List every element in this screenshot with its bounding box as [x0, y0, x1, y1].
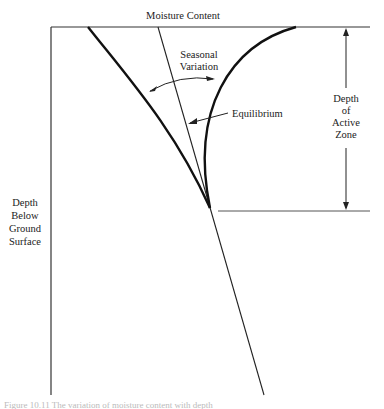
- active-zone-arrow-bottom: [343, 202, 349, 210]
- moisture-depth-diagram: Moisture Content Seasonal Variation Equi…: [0, 0, 384, 409]
- arc-arrowhead-right: [206, 76, 215, 81]
- active-zone-arrow-top: [343, 28, 349, 36]
- label-depth-below-2: Below: [11, 210, 39, 221]
- label-active-zone-3: Active: [332, 117, 360, 128]
- label-seasonal-variation-2: Variation: [180, 61, 219, 72]
- figure-caption: Figure 10.11 The variation of moisture c…: [4, 400, 213, 409]
- label-equilibrium: Equilibrium: [232, 108, 283, 119]
- seasonal-variation-arc: [150, 78, 213, 91]
- label-depth-below-4: Surface: [9, 236, 41, 247]
- title-moisture-content: Moisture Content: [146, 10, 220, 21]
- equilibrium-arrowhead: [188, 118, 197, 124]
- label-seasonal-variation-1: Seasonal: [180, 49, 217, 60]
- label-depth-below-1: Depth: [12, 197, 38, 208]
- label-active-zone-2: of: [342, 105, 351, 116]
- label-depth-below-3: Ground: [9, 223, 42, 234]
- label-active-zone-1: Depth: [333, 93, 359, 104]
- label-active-zone-4: Zone: [335, 129, 357, 140]
